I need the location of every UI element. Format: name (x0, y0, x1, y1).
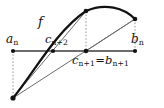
label-b-n: bn (131, 33, 144, 45)
label-a-n-subscript: n (13, 38, 18, 47)
label-a-n: an (6, 33, 18, 45)
secant-c_n1-to-right-end (86, 19, 135, 51)
label-equals-operator: = (95, 53, 105, 67)
point-c_n1-b_n1 (84, 49, 89, 54)
label-b-n-subscript: n (139, 38, 144, 47)
label-b-n-base: b (131, 32, 139, 46)
point-c_n2 (51, 49, 55, 53)
point-origin-vertex (10, 95, 15, 100)
label-c-n-plus-2: cn+2 (45, 34, 68, 46)
diagram-canvas (0, 0, 164, 108)
label-c-n-plus-1-subscript: n+1 (78, 59, 95, 68)
point-curve-apex (84, 9, 89, 14)
label-c-n-plus-1-equals-b-n-plus-1: cn+1=bn+1 (72, 55, 129, 67)
point-curve-right-end (133, 17, 138, 22)
label-b-n-plus-1-subscript: n+1 (112, 59, 129, 68)
function-label-f: f (38, 15, 43, 28)
bisection-method-figure: f an cn+2 bn cn+1=bn+1 (0, 0, 164, 108)
point-b_n (133, 49, 137, 53)
label-c-n-plus-2-subscript: n+2 (51, 38, 68, 47)
point-a_n (11, 49, 15, 53)
